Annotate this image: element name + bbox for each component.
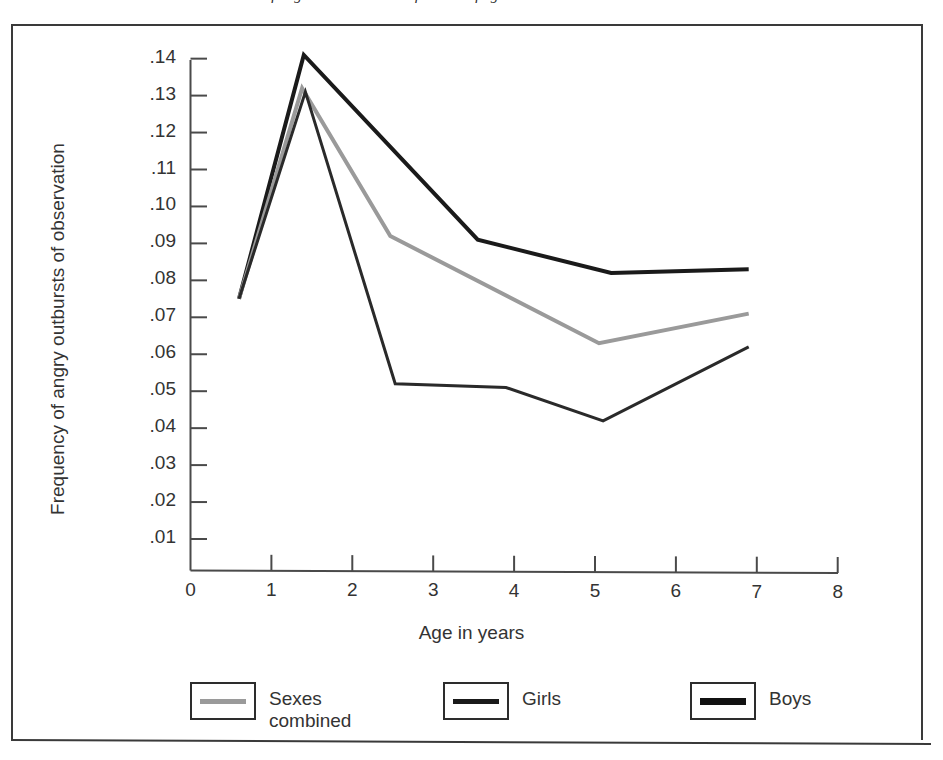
x-tick-label: 0 xyxy=(171,579,211,601)
y-tick-label: .04 xyxy=(124,415,176,437)
legend-entry: Sexes combined xyxy=(190,682,351,732)
chart-legend: Sexes combinedGirlsBoys xyxy=(190,682,890,742)
y-axis-title: Frequency of angry outbursts of observat… xyxy=(47,119,69,539)
y-tick-label: .14 xyxy=(124,46,176,68)
legend-line-sample xyxy=(700,698,746,705)
legend-label: Girls xyxy=(522,682,561,710)
legend-swatch xyxy=(690,682,756,720)
y-tick-label: .02 xyxy=(124,489,176,511)
y-tick-label: .03 xyxy=(124,452,176,474)
legend-label: Boys xyxy=(769,682,811,710)
x-tick-label: 4 xyxy=(494,580,534,602)
figure-caption-strip: FIGURE 13.2 Outbursts of anger in childr… xyxy=(0,0,943,11)
x-tick-label: 5 xyxy=(575,580,615,602)
legend-entry: Girls xyxy=(443,682,561,720)
y-tick-label: .10 xyxy=(124,193,176,215)
y-tick-label: .11 xyxy=(124,157,176,179)
x-tick-label: 3 xyxy=(413,579,453,601)
figure-page: FIGURE 13.2 Outbursts of anger in childr… xyxy=(0,0,943,760)
legend-swatch xyxy=(190,682,256,720)
legend-swatch xyxy=(443,682,509,720)
y-tick-label: .08 xyxy=(124,267,176,289)
figure-caption: FIGURE 13.2 Outbursts of anger in childr… xyxy=(113,0,554,4)
x-tick-label: 2 xyxy=(332,579,372,601)
x-tick-label: 6 xyxy=(656,580,696,602)
legend-line-sample xyxy=(453,699,499,704)
x-tick-label: 8 xyxy=(818,581,858,603)
legend-entry: Boys xyxy=(690,682,811,720)
y-tick-label: .01 xyxy=(124,526,176,548)
y-tick-label: .05 xyxy=(124,378,176,400)
x-tick-label: 1 xyxy=(251,579,291,601)
x-axis-title: Age in years xyxy=(0,622,943,644)
y-tick-label: .07 xyxy=(124,304,176,326)
legend-label: Sexes combined xyxy=(269,682,351,732)
x-tick-label: 7 xyxy=(737,581,777,603)
y-tick-label: .06 xyxy=(124,341,176,363)
y-tick-label: .13 xyxy=(124,83,176,105)
legend-line-sample xyxy=(200,699,246,704)
y-tick-label: .12 xyxy=(124,120,176,142)
y-tick-label: .09 xyxy=(124,230,176,252)
